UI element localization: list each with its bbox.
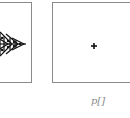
right-panel: [52, 2, 130, 83]
point-marker-icon: [52, 2, 130, 83]
left-panel: [0, 2, 32, 83]
fractal-pattern-icon: [0, 2, 32, 83]
panel-caption: p[]: [83, 95, 113, 106]
